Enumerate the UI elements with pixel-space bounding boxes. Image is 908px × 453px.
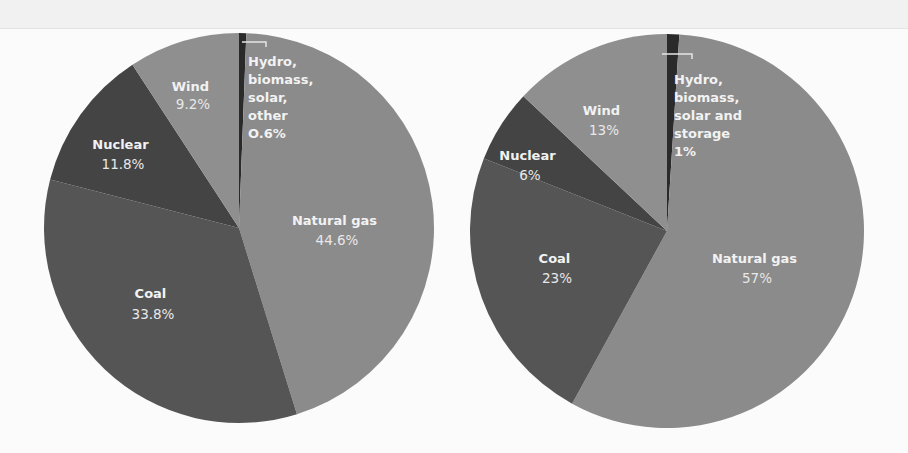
pie-chart-right (470, 34, 864, 428)
pie-charts: Hydro, biomass, solar, other O.6% Wind 9… (0, 0, 908, 453)
pie-chart-left (44, 33, 434, 423)
